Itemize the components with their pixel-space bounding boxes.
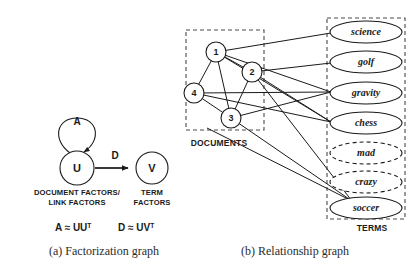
terms-group-label: TERMS bbox=[357, 223, 388, 233]
edge-3-gravity bbox=[231, 92, 331, 118]
v-caption-line1: TERM bbox=[141, 188, 163, 197]
edge-3-soccer bbox=[231, 118, 352, 201]
term-node-golf: golf bbox=[330, 51, 402, 73]
term-node-gravity-label: gravity bbox=[351, 87, 381, 98]
edge-4-gravity bbox=[194, 92, 331, 93]
formula-a-base: A ≈ UU bbox=[55, 222, 87, 233]
self-loop-label-a: A bbox=[73, 116, 80, 127]
term-node-soccer-label: soccer bbox=[352, 202, 379, 213]
documents-group-label: DOCUMENTS bbox=[191, 138, 248, 148]
figure-container: A D U V DOCUMENT FACTORS/ LINK FACTORS T… bbox=[0, 0, 418, 267]
node-u-label: U bbox=[73, 162, 81, 174]
term-node-golf-label: golf bbox=[357, 56, 376, 67]
u-caption-line1: DOCUMENT FACTORS/ bbox=[34, 188, 121, 197]
term-node-science: science bbox=[330, 21, 402, 43]
term-node-soccer: soccer bbox=[330, 197, 402, 219]
document-node-3: 3 bbox=[221, 108, 241, 128]
formula-d-sup: T bbox=[150, 222, 154, 229]
term-node-mad-label: mad bbox=[357, 147, 376, 158]
term-node-science-label: science bbox=[350, 26, 382, 37]
node-v: V bbox=[136, 152, 168, 184]
document-node-3-label: 3 bbox=[228, 113, 233, 123]
v-caption-line2: FACTORS bbox=[134, 198, 171, 207]
panel-b-caption: (b) Relationship graph bbox=[241, 244, 349, 258]
term-node-gravity: gravity bbox=[330, 82, 402, 104]
term-node-crazy-label: crazy bbox=[355, 176, 377, 187]
term-node-mad: mad bbox=[330, 142, 402, 164]
panel-b-relationship-graph: 1 2 3 4 science golf bbox=[184, 18, 405, 258]
document-node-2: 2 bbox=[242, 62, 262, 82]
panel-a-factorization-graph: A D U V DOCUMENT FACTORS/ LINK FACTORS T… bbox=[34, 116, 170, 258]
node-v-label: V bbox=[148, 162, 156, 174]
edge-label-d: D bbox=[111, 150, 118, 161]
formula-a-sup: T bbox=[87, 222, 91, 229]
formula-d-base: D ≈ UV bbox=[118, 222, 150, 233]
document-node-2-label: 2 bbox=[249, 67, 254, 77]
document-node-4-label: 4 bbox=[191, 88, 196, 98]
figure-svg: A D U V DOCUMENT FACTORS/ LINK FACTORS T… bbox=[0, 0, 418, 267]
term-node-chess: chess bbox=[330, 112, 402, 134]
term-node-chess-label: chess bbox=[355, 117, 377, 128]
u-caption-line2: LINK FACTORS bbox=[48, 198, 105, 207]
document-node-4: 4 bbox=[184, 83, 204, 103]
document-node-1-label: 1 bbox=[213, 47, 218, 57]
term-node-crazy: crazy bbox=[330, 171, 402, 193]
document-node-1: 1 bbox=[206, 42, 226, 62]
formula-d: D ≈ UVT bbox=[118, 222, 154, 234]
panel-a-caption: (a) Factorization graph bbox=[49, 244, 159, 258]
edge-1-science bbox=[216, 33, 331, 52]
node-u: U bbox=[60, 151, 94, 185]
formula-a: A ≈ UUT bbox=[55, 222, 91, 234]
